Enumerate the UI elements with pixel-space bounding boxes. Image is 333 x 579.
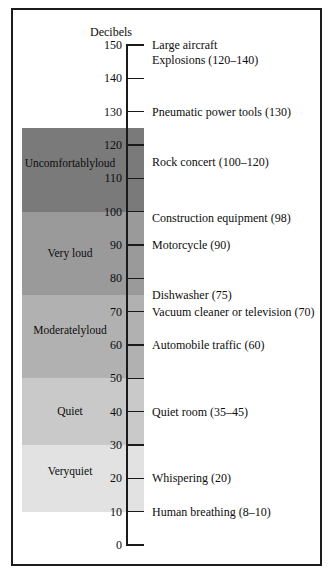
axis-tick-50	[126, 378, 144, 380]
annotation-line: Dishwasher (75)	[152, 288, 232, 303]
band-label-line: loud	[95, 157, 115, 169]
axis-tick-0	[126, 544, 144, 546]
annotation-line: Vacuum cleaner or television (70)	[152, 305, 315, 320]
band-label-line: loud	[86, 324, 106, 336]
annotation-line: Motorcycle (90)	[152, 238, 230, 253]
axis-tick-label-80: 80	[88, 272, 122, 284]
annotation-line: Automobile traffic (60)	[152, 338, 264, 353]
axis-tick-label-130: 130	[88, 106, 122, 118]
axis-tick-label-150: 150	[88, 39, 122, 51]
annotation-line: Large aircraft	[152, 38, 258, 53]
axis-tick-100	[126, 211, 144, 213]
annotation-dishwasher-75: Dishwasher (75)	[152, 288, 232, 303]
axis-tick-label-120: 120	[88, 139, 122, 151]
annotation-line: Explosions (120–140)	[152, 53, 258, 68]
axis-tick-label-140: 140	[88, 72, 122, 84]
annotation-motorcycle-90: Motorcycle (90)	[152, 238, 230, 253]
axis-tick-60	[126, 344, 144, 346]
axis-tick-label-40: 40	[88, 406, 122, 418]
axis-tick-label-20: 20	[88, 472, 122, 484]
annotation-quiet-room-35-45: Quiet room (35–45)	[152, 405, 248, 420]
band-label-moderately-loud: Moderatelyloud	[22, 324, 118, 337]
axis-tick-label-60: 60	[88, 339, 122, 351]
axis-tick-label-70: 70	[88, 306, 122, 318]
band-label-line: Uncomfortably	[25, 157, 95, 169]
annotation-construction-equipment-98: Construction equipment (98)	[152, 211, 291, 226]
axis-title: Decibels	[90, 26, 132, 39]
annotation-line: Whispering (20)	[152, 471, 231, 486]
band-label-line: Very loud	[47, 247, 92, 259]
annotation-line: Pneumatic power tools (130)	[152, 105, 291, 120]
axis-tick-70	[126, 311, 144, 313]
axis-tick-label-110: 110	[88, 172, 122, 184]
axis-tick-130	[126, 111, 144, 113]
annotation-line: Rock concert (100–120)	[152, 155, 269, 170]
annotation-whispering-20: Whispering (20)	[152, 471, 231, 486]
decibel-scale-figure: UncomfortablyloudVery loudModeratelyloud…	[0, 0, 333, 579]
axis-tick-label-90: 90	[88, 239, 122, 251]
annotation-automobile-traffic-60: Automobile traffic (60)	[152, 338, 264, 353]
axis-tick-120	[126, 144, 144, 146]
band-label-line: Moderately	[33, 324, 86, 336]
decibel-axis-line	[126, 45, 128, 545]
axis-tick-label-10: 10	[88, 506, 122, 518]
band-label-line: Quiet	[57, 405, 83, 417]
annotation-pneumatic-power-tools-130: Pneumatic power tools (130)	[152, 105, 291, 120]
annotation-large-aircraft: Large aircraftExplosions (120–140)	[152, 38, 258, 67]
axis-tick-label-0: 0	[88, 539, 122, 551]
axis-tick-label-100: 100	[88, 206, 122, 218]
axis-tick-20	[126, 478, 144, 480]
annotation-rock-concert-100-120: Rock concert (100–120)	[152, 155, 269, 170]
annotation-line: Human breathing (8–10)	[152, 505, 271, 520]
axis-tick-label-50: 50	[88, 372, 122, 384]
band-label-uncomfortably-loud: Uncomfortablyloud	[22, 157, 118, 170]
annotation-line: Quiet room (35–45)	[152, 405, 248, 420]
axis-tick-150	[126, 44, 144, 46]
annotation-line: Construction equipment (98)	[152, 211, 291, 226]
axis-tick-30	[126, 444, 144, 446]
axis-tick-140	[126, 78, 144, 80]
axis-tick-label-30: 30	[88, 439, 122, 451]
annotation-human-breathing-8-10: Human breathing (8–10)	[152, 505, 271, 520]
axis-tick-10	[126, 511, 144, 513]
axis-tick-80	[126, 278, 144, 280]
axis-tick-90	[126, 244, 144, 246]
annotation-vacuum-cleaner-or-television-70: Vacuum cleaner or television (70)	[152, 305, 315, 320]
axis-tick-110	[126, 178, 144, 180]
band-label-line: Very	[48, 465, 70, 477]
plot-area: UncomfortablyloudVery loudModeratelyloud…	[0, 0, 333, 579]
axis-tick-40	[126, 411, 144, 413]
